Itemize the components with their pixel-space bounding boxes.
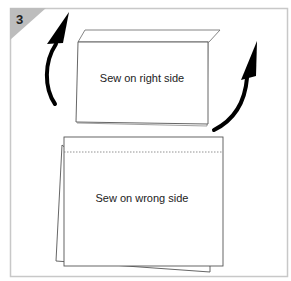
top-panel-label: Sew on right side [100,72,184,84]
diagram-canvas: 3 Sew on right side Sew on wrong side [0,0,291,281]
bottom-panel: Sew on wrong side [56,137,223,272]
bottom-panel-label: Sew on wrong side [96,192,189,204]
top-panel: Sew on right side [76,30,220,126]
step-number: 3 [16,12,23,27]
